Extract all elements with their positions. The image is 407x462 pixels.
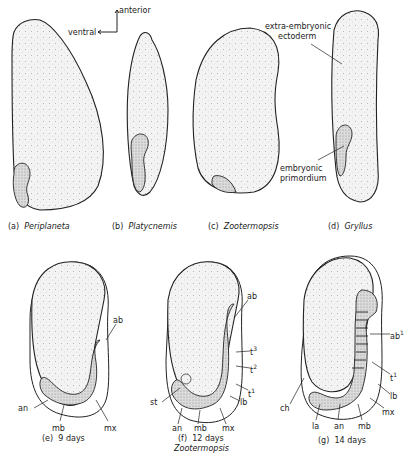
- caption-age: 9 days: [58, 434, 85, 443]
- caption-letter: (d): [328, 222, 339, 231]
- label-g-an: an: [334, 422, 344, 431]
- caption-f-genus: Zootermopsis: [174, 444, 229, 453]
- label-f-an: an: [172, 424, 182, 433]
- caption-g: (g) 14 days: [318, 436, 366, 445]
- caption-age: 12 days: [192, 434, 224, 443]
- label-f-lb: lb: [240, 398, 247, 407]
- label-f-t3: t3: [250, 344, 257, 357]
- egg-zootermopsis: [193, 28, 279, 193]
- caption-e: (e) 9 days: [42, 434, 85, 443]
- ventral-label: ventral: [68, 28, 96, 37]
- caption-letter: (g): [318, 436, 329, 445]
- caption-f: (f) 12 days: [178, 434, 224, 443]
- label-g-lb: lb: [390, 392, 397, 401]
- caption-genus: Gryllus: [344, 222, 372, 231]
- embryonic-primordium-label-line2: primordium: [280, 174, 327, 183]
- label-g-ab1: ab1: [390, 328, 404, 341]
- label-e-mb: mb: [52, 424, 65, 433]
- caption-a: (a) Periplaneta: [8, 222, 70, 231]
- label-f-mx: mx: [222, 424, 235, 433]
- caption-genus: Periplaneta: [24, 222, 70, 231]
- caption-genus: Platycnemis: [128, 222, 176, 231]
- extra-embryonic-label-line2: ectoderm: [278, 32, 316, 41]
- label-f-mb: mb: [194, 424, 207, 433]
- caption-letter: (a): [8, 222, 19, 231]
- caption-letter: (b): [112, 222, 123, 231]
- label-g-mb: mb: [358, 422, 371, 431]
- label-g-mx: mx: [382, 408, 395, 417]
- label-f-ab: ab: [247, 292, 257, 301]
- label-f-st: st: [150, 398, 157, 407]
- label-e-ab: ab: [113, 316, 123, 325]
- caption-letter: (e): [42, 434, 53, 443]
- caption-genus: Zootermopsis: [174, 444, 229, 453]
- egg-14-days: [290, 256, 390, 420]
- orientation-arrows: [98, 10, 119, 34]
- egg-platycnemis: [127, 33, 168, 196]
- label-f-t1: t1: [248, 386, 255, 399]
- caption-d: (d) Gryllus: [328, 222, 372, 231]
- caption-letter: (f): [178, 434, 187, 443]
- caption-age: 14 days: [334, 436, 366, 445]
- egg-gryllus: [332, 11, 379, 202]
- label-g-la: la: [312, 422, 319, 431]
- label-g-ch: ch: [280, 404, 289, 413]
- label-f-t2: t2: [250, 362, 257, 375]
- egg-9-days: [30, 262, 116, 421]
- label-g-t1: t1: [390, 370, 397, 383]
- label-e-mx: mx: [104, 424, 117, 433]
- label-e-an: an: [18, 404, 28, 413]
- egg-12-days: [162, 262, 250, 424]
- embryonic-primordium-label-line1: embryonic: [280, 164, 322, 173]
- caption-letter: (c): [208, 222, 219, 231]
- caption-b: (b) Platycnemis: [112, 222, 177, 231]
- caption-c: (c) Zootermopsis: [208, 222, 279, 231]
- extra-embryonic-label-line1: extra-embryonic: [265, 22, 331, 31]
- caption-genus: Zootermopsis: [224, 222, 279, 231]
- figure-drawing: [0, 0, 407, 462]
- anterior-label: anterior: [119, 6, 151, 15]
- insect-embryo-figure: anterior ventral extra-embryonic ectoder…: [0, 0, 407, 462]
- egg-periplaneta: [12, 20, 103, 211]
